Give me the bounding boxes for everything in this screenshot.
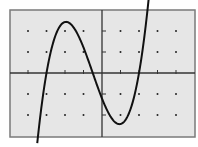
function-graph [0,0,198,147]
